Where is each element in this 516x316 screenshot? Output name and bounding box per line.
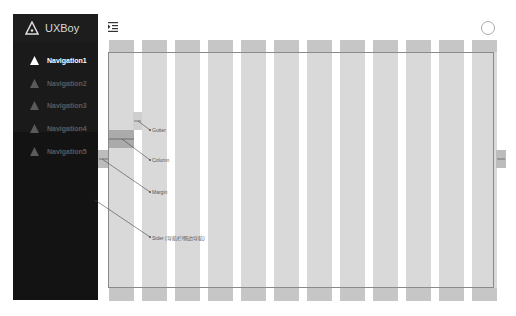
annotation-sider: Sider (导航栏/侧边导航) (152, 234, 205, 241)
annotation-lines (0, 0, 516, 316)
annotation-column: Column (152, 157, 169, 163)
annotation-margin: Margin (152, 189, 167, 195)
annotation-gutter: Gutter (152, 127, 166, 133)
